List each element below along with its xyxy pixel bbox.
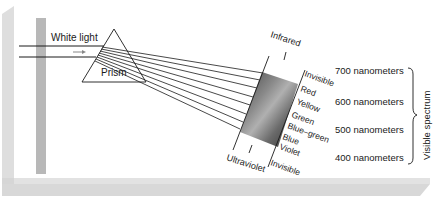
- invisible-bottom-label: Invisible: [269, 157, 302, 177]
- wavelength-700: 700 nanometers: [335, 65, 404, 76]
- dispersed-rays: [95, 47, 263, 129]
- visible-brace: [408, 68, 417, 164]
- wavelength-600: 600 nanometers: [335, 96, 404, 107]
- wavelength-400: 400 nanometers: [335, 152, 404, 163]
- ultraviolet-label: Ultraviolet: [225, 152, 267, 174]
- color-red: Red: [299, 83, 317, 98]
- prism-label: Prism: [101, 67, 127, 78]
- light-post: [36, 18, 46, 174]
- arrow-icon: [73, 50, 86, 54]
- visible-spectrum-label: Visible spectrum: [421, 90, 432, 160]
- color-violet: Violet: [278, 141, 302, 158]
- infrared-label: Infrared: [269, 29, 302, 48]
- wavelength-500: 500 nanometers: [335, 124, 404, 135]
- white-light-label: White light: [51, 32, 98, 43]
- wavelength-scale: 700 nanometers 600 nanometers 500 nanome…: [335, 65, 404, 163]
- prism-diagram: White light Prism Infrared Ultraviolet I…: [0, 0, 441, 202]
- white-light-beam: [19, 46, 104, 57]
